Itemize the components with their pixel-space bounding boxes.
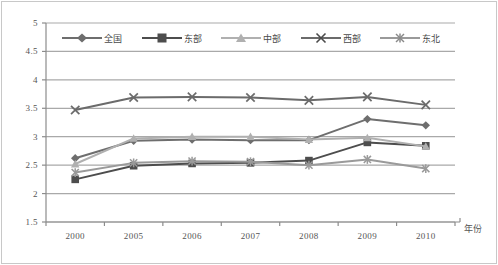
chart-legend: 全国 东部 中部 西部 (62, 30, 440, 46)
y-axis-tick: 5 (10, 18, 38, 28)
legend-label-xibu: 西部 (343, 32, 361, 45)
y-axis-tick: 3 (10, 132, 38, 142)
x-axis-title: 年份 (464, 222, 482, 235)
x-axis-tick: 2006 (170, 231, 214, 241)
series-3 (71, 93, 430, 114)
x-axis-tick: 2010 (404, 231, 448, 241)
y-axis-tick: 4 (10, 75, 38, 85)
x-axis-tick: 2007 (229, 231, 273, 241)
y-axis-tick: 2 (10, 189, 38, 199)
y-axis-tick: 2.5 (10, 160, 38, 170)
legend-label-dongbei: 东北 (422, 32, 440, 45)
y-axis-tick: 3.5 (10, 103, 38, 113)
legend-item-quanguo[interactable]: 全国 (62, 32, 122, 45)
legend-item-dongbu[interactable]: 东部 (142, 32, 202, 45)
x-axis-tick: 2000 (53, 231, 97, 241)
legend-marker-square-icon (142, 32, 182, 44)
legend-label-dongbu: 东部 (184, 32, 202, 45)
legend-marker-x-icon (301, 32, 341, 44)
legend-label-quanguo: 全国 (104, 32, 122, 45)
legend-label-zhongbu: 中部 (263, 32, 281, 45)
legend-item-dongbei[interactable]: 东北 (380, 32, 440, 45)
legend-marker-diamond-icon (62, 32, 102, 44)
legend-item-zhongbu[interactable]: 中部 (221, 32, 281, 45)
y-axis-tick: 1.5 (10, 217, 38, 227)
y-axis-tick: 4.5 (10, 46, 38, 56)
line-chart: 全国 东部 中部 西部 (0, 0, 498, 265)
x-axis-tick: 2005 (112, 231, 156, 241)
x-axis-tick: 2008 (287, 231, 331, 241)
x-axis-tick: 2009 (345, 231, 389, 241)
series-4 (72, 155, 430, 177)
legend-marker-asterisk-icon (380, 32, 420, 44)
legend-marker-triangle-icon (221, 32, 261, 44)
legend-item-xibu[interactable]: 西部 (301, 32, 361, 45)
